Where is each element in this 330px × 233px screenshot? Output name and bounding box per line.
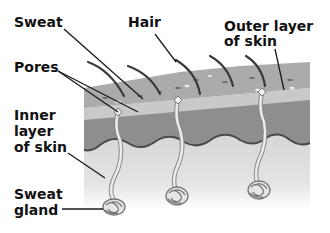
leader-hair	[155, 34, 176, 62]
label-hair: Hair	[128, 15, 161, 30]
label-pores: Pores	[14, 60, 59, 75]
label-sweat: Sweat	[14, 15, 63, 30]
skin-diagram: Sweat Hair Outer layer of skin Pores Inn…	[0, 0, 330, 233]
label-sweat-gland: Sweat gland	[14, 186, 63, 218]
label-inner-layer: Inner layer of skin	[14, 107, 67, 155]
label-outer-layer: Outer layer of skin	[224, 19, 313, 49]
